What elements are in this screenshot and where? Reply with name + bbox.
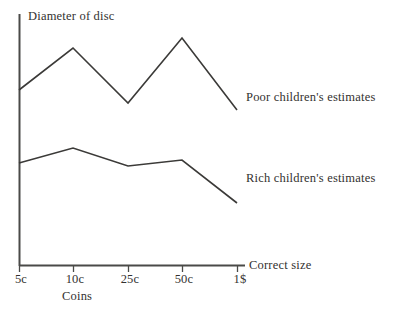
x-axis-end-label: Correct size [249,258,311,273]
series-line-poor [19,38,237,110]
series-label-poor: Poor children's estimates [246,90,375,105]
y-axis-title: Diameter of disc [28,9,115,24]
x-tick-label-10c: 10c [66,272,85,287]
series-label-rich: Rich children's estimates [246,171,375,186]
x-axis-title: Coins [62,289,92,304]
series-line-rich [19,148,237,203]
chart-plot-area [0,0,408,318]
x-tick-label-25c: 25c [121,272,140,287]
x-tick-label-1dollar: 1$ [234,272,247,287]
x-tick-label-5c: 5c [15,272,27,287]
x-tick-label-50c: 50c [175,272,194,287]
chart-figure: Diameter of disc Correct size Coins 5c 1… [0,0,408,318]
